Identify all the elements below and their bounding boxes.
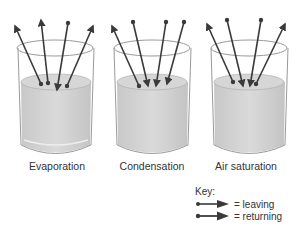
legend-item-leaving: = leaving <box>195 198 282 210</box>
arrow-leaving-icon <box>195 199 231 209</box>
water-cycle-diagram: Evaporation Condensation Air saturation … <box>0 0 297 234</box>
legend-label-leaving: = leaving <box>234 199 274 210</box>
legend-label-returning: = returning <box>234 211 282 222</box>
caption-condensation: Condensation <box>107 160 197 172</box>
arrow-returning <box>167 20 186 84</box>
legend-title: Key: <box>195 186 282 197</box>
arrow-returning-icon <box>195 211 231 221</box>
caption-air-saturation: Air saturation <box>201 160 291 172</box>
legend: Key: = leaving = returning <box>195 186 282 222</box>
caption-evaporation: Evaporation <box>12 160 102 172</box>
beaker-air-saturation <box>207 18 288 154</box>
legend-item-returning: = returning <box>195 210 282 222</box>
beaker-evaporation <box>15 20 94 154</box>
beaker-condensation <box>112 20 191 154</box>
